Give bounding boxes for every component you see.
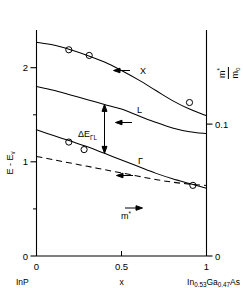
y-axis-right-title-numerator: m* [216,67,227,78]
curve-label-Gamma: Γ [138,156,143,166]
curve-Gamma [37,130,207,188]
endpoint-label-right: In0.53Ga0.47As [187,277,240,288]
y-tick-label-left-2: 2 [23,62,28,73]
x-tick-label-0.5: 0.5 [115,261,128,272]
endpoint-label-left: InP [16,277,29,287]
x-tick-label-1: 1 [204,261,209,272]
curve-L-path [37,87,207,134]
curve-X [37,42,207,115]
curve-Gamma-pointer-arrowhead [117,173,124,178]
y-axis-right-title-denominator: mo [230,67,241,79]
x-axis-label: x [119,277,124,287]
data-point [66,139,72,145]
axis-captions: InP x In0.53Ga0.47As [16,277,240,288]
data-points-X [66,47,193,106]
y-axis-right-ticks [207,124,213,256]
curve-L-pointer-arrowhead [116,120,123,125]
y-axis-left-title-group: E - Ev [5,151,16,175]
y-tick-label-right-0: 0 [215,251,220,262]
plot-frame [37,30,207,256]
x-axis-tick-labels: 0 0.5 1 [34,261,209,272]
delta-E-label: ΔEΓL [78,129,97,141]
chart-svg: ΔEΓL X L Γ m* 0 1 2 0 0.1 0 0.5 1 [0,0,243,288]
band-structure-figure: ΔEΓL X L Γ m* 0 1 2 0 0.1 0 0.5 1 [0,0,243,288]
delta-E-label-sub: ΓL [90,134,97,141]
y-axis-left-title: E - Ev [5,151,16,175]
y-axis-left-ticks [31,68,37,256]
annotation-delta-E-Gamma-L: ΔEΓL [78,104,107,153]
curve-label-m-star-group: m* [121,206,143,221]
y-tick-label-right-0.1: 0.1 [215,119,228,130]
curve-label-m-star: m* [121,210,132,221]
x-tick-label-0: 0 [34,261,39,272]
curve-X-pointer-arrowhead [114,68,121,73]
data-point [81,146,87,152]
data-point [186,99,192,105]
delta-E-arrow-head-up [102,104,107,111]
curve-label-L: L [137,105,142,115]
y-axis-right-tick-labels: 0 0.1 [215,119,228,262]
y-axis-left-tick-labels: 0 1 2 [23,62,28,261]
y-tick-label-left-0: 0 [23,251,28,262]
y-axis-right-title-group: m* mo [216,67,241,79]
curve-label-X: X [140,66,146,76]
delta-E-label-main: ΔE [78,129,90,139]
y-tick-label-left-1: 1 [23,156,28,167]
curve-m-star-pointer-arrowhead [136,206,143,211]
curve-X-path [37,42,207,115]
curve-Gamma-path [37,130,207,188]
curve-L [37,87,207,134]
